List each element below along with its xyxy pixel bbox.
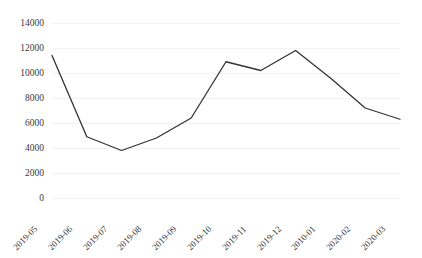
x-tick-label: 2020-02	[324, 224, 352, 252]
x-tick-label: 2019-07	[81, 224, 109, 252]
plot-area	[52, 23, 400, 198]
x-tick-label: 2019-06	[46, 224, 74, 252]
y-tick-label: 8000	[25, 93, 44, 103]
y-tick-label: 2000	[25, 168, 44, 178]
x-tick-label: 2019-11	[220, 224, 248, 252]
x-tick-label: 2019-12	[255, 224, 283, 252]
series-line	[52, 23, 400, 198]
y-tick-label: 10000	[20, 68, 44, 78]
x-tick-label: 2020-03	[359, 224, 387, 252]
y-tick-label: 0	[39, 193, 44, 203]
y-tick-label: 14000	[20, 18, 44, 28]
series-path	[52, 51, 400, 151]
x-tick-label: 2019-10	[185, 224, 213, 252]
x-axis: 2019-052019-062019-072019-082019-092019-…	[52, 198, 400, 258]
y-tick-label: 4000	[25, 143, 44, 153]
line-chart: 02000400060008000100001200014000 2019-05…	[0, 0, 422, 258]
x-tick-label: 2010-01	[289, 224, 317, 252]
y-tick-label: 6000	[25, 118, 44, 128]
x-tick-label: 2019-08	[115, 224, 143, 252]
x-tick-label: 2019-09	[150, 224, 178, 252]
y-axis: 02000400060008000100001200014000	[0, 0, 50, 258]
y-tick-label: 12000	[20, 43, 44, 53]
